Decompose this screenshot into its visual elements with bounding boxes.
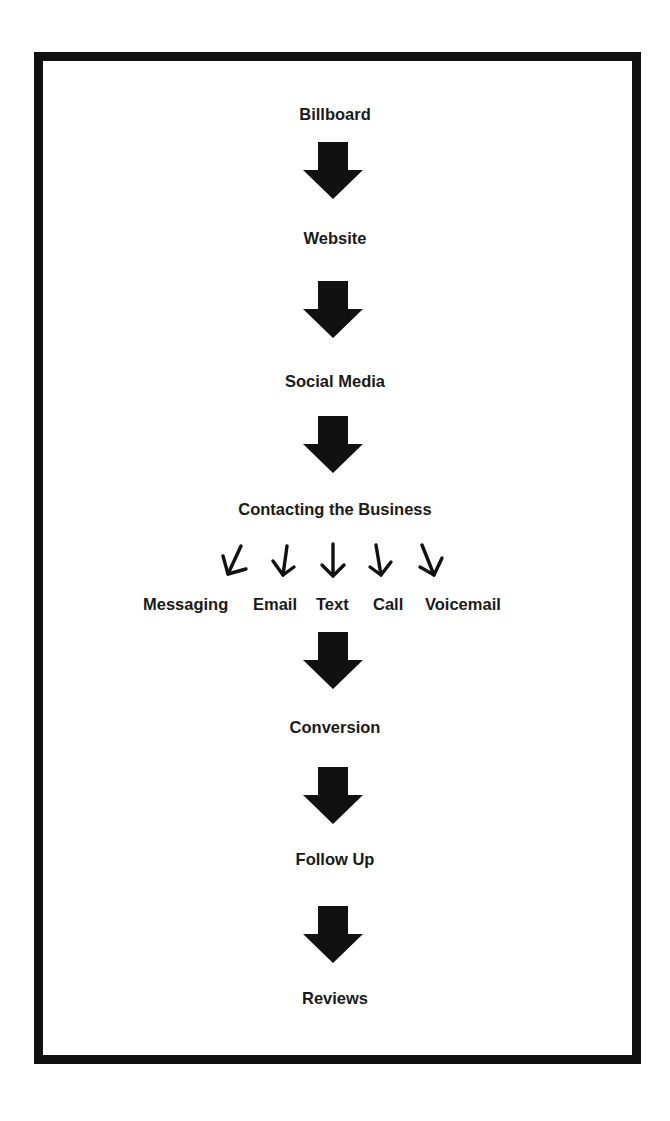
channel-voicemail: Voicemail [425,594,501,614]
arrow-down-icon [303,767,363,824]
step-conversion: Conversion [0,717,670,737]
channel-call: Call [373,594,403,614]
step-social-media: Social Media [0,371,670,391]
arrow-down-icon [303,416,363,473]
arrow-down-icon [303,632,363,689]
step-billboard: Billboard [0,104,670,124]
step-follow-up: Follow Up [0,849,670,869]
arrow-down-icon [303,281,363,338]
arrow-down-icon [303,142,363,199]
step-contacting-the-business: Contacting the Business [0,499,670,519]
channel-email: Email [253,594,297,614]
channel-messaging: Messaging [143,594,228,614]
channel-text: Text [316,594,349,614]
step-reviews: Reviews [0,988,670,1008]
arrow-down-icon [303,906,363,963]
step-website: Website [0,228,670,248]
